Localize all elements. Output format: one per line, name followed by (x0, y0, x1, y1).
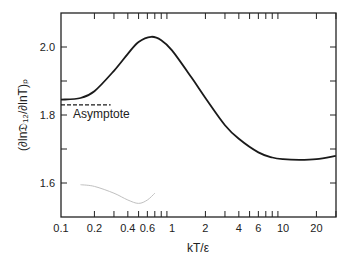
minor-ticks (94, 13, 336, 217)
x-tick-label: 20 (310, 222, 322, 234)
y-tick-label: 1.8 (40, 109, 55, 121)
x-tick-label: 6 (255, 222, 261, 234)
asymptote-label: Asymptote (73, 107, 130, 121)
x-tick-label: 10 (277, 222, 289, 234)
y-axis-title: (∂ln𝔇₁₂/∂lnT)ₚ (16, 79, 30, 151)
x-tick-labels: 0.10.20.40.612461020 (53, 222, 322, 234)
x-axis-title: kT/ε (187, 241, 210, 255)
x-tick-label: 0.2 (87, 222, 102, 234)
y-tick-label: 2.0 (40, 41, 55, 53)
faint-curve (81, 185, 155, 204)
x-tick-label: 0.4 (120, 222, 135, 234)
x-tick-label: 1 (169, 222, 175, 234)
y-tick-label: 1.6 (40, 177, 55, 189)
x-tick-label: 0.1 (53, 222, 68, 234)
x-tick-label: 0.6 (140, 222, 155, 234)
main-curve (61, 37, 336, 160)
chart: 0.10.20.40.612461020 1.61.82.0 Asymptote… (0, 0, 351, 267)
x-tick-label: 2 (202, 222, 208, 234)
y-tick-labels: 1.61.82.0 (40, 41, 55, 189)
x-tick-label: 4 (236, 222, 242, 234)
